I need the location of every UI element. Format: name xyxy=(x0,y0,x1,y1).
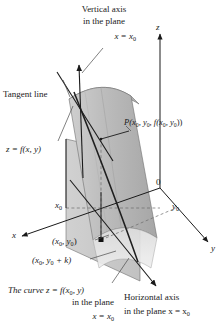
surface-equation-label: z = f(x, y) xyxy=(6,144,41,154)
op-b: , y xyxy=(42,255,51,265)
pP-c: , f(x xyxy=(150,117,163,127)
vertical-axis-eq-var: x = x xyxy=(114,31,133,41)
figure-canvas: Vertical axis in the plane x = x0 z Tang… xyxy=(0,0,224,331)
bp-c: ) xyxy=(74,236,77,246)
bp-a: (x xyxy=(52,236,59,246)
cc-s2: 0 xyxy=(111,316,114,322)
curve-caption-line1: The curve z = f(x0, y) xyxy=(8,285,84,297)
ha-s1: 0 xyxy=(187,311,190,317)
x0-sub: 0 xyxy=(59,205,62,211)
horizontal-axis-label-line1: Horizontal axis xyxy=(124,292,179,302)
x0-tick-label: x0 xyxy=(55,200,62,212)
y0-sub: 0 xyxy=(176,206,179,212)
pP-d: , y xyxy=(166,117,174,127)
op-c: + k) xyxy=(54,255,72,265)
pP-b: , y xyxy=(139,117,147,127)
pP-e: )) xyxy=(177,117,183,127)
cc-a: The curve z = f(x xyxy=(8,285,70,295)
point-P-label: P(x0, y0, f(x0, y0)) xyxy=(124,118,182,128)
vertical-axis-label-line1: Vertical axis xyxy=(58,4,150,14)
ha-a: in the plane x = x xyxy=(124,306,187,316)
horizontal-axis-label-line2: in the plane x = x0 xyxy=(124,306,190,318)
pP-a: P(x xyxy=(124,117,136,127)
tangent-line-label: Tangent line xyxy=(3,89,48,99)
op-a: (x xyxy=(32,255,39,265)
offset-point-label: (x0, y0 + k) xyxy=(32,255,71,267)
bp-b: , y xyxy=(62,236,71,246)
z-axis-label: z xyxy=(156,22,160,32)
cc-b: , y) xyxy=(73,285,85,295)
vertical-axis-label-equation: x = x0 xyxy=(58,31,136,43)
curve-caption-line2: in the plane xyxy=(8,297,114,307)
vertical-axis-eq-sub: 0 xyxy=(133,36,136,42)
vertical-axis-label-line2: in the plane xyxy=(58,16,150,26)
y0-tick-label: y0 xyxy=(172,201,179,213)
x-axis-label: x xyxy=(12,230,16,240)
diagram-svg xyxy=(0,0,224,331)
cc-c: x = x xyxy=(92,311,111,321)
base-point-label: (x0, y0) xyxy=(52,236,77,248)
y-axis-label: y xyxy=(211,243,215,253)
curve-caption-line3: x = x0 xyxy=(8,311,114,323)
origin-label: 0 xyxy=(156,177,161,187)
